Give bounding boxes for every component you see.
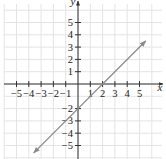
- y-tick-label: 1: [68, 66, 73, 77]
- x-axis-label: x: [157, 81, 163, 93]
- x-tick-label: −1: [60, 88, 71, 99]
- x-tick-label: 3: [112, 88, 117, 99]
- y-tick-label: 4: [68, 29, 74, 40]
- y-tick-label: −2: [62, 103, 73, 114]
- y-tick-label: 5: [68, 17, 73, 28]
- x-tick-label: −3: [36, 88, 47, 99]
- x-tick-label: −5: [11, 88, 22, 99]
- x-tick-label: −2: [48, 88, 59, 99]
- y-tick-label: −5: [62, 140, 73, 151]
- x-tick-label: 5: [137, 88, 142, 99]
- grid-lines: [4, 4, 162, 159]
- y-tick-label: −4: [62, 128, 74, 139]
- y-tick-label: 3: [68, 42, 73, 53]
- x-tick-label: −4: [23, 88, 35, 99]
- y-tick-label: 2: [68, 54, 73, 65]
- coordinate-plane: −5−4−3−2−11234554321−2−3−4−5 x y: [0, 0, 166, 159]
- x-tick-label: 4: [125, 88, 131, 99]
- y-tick-label: −3: [62, 115, 73, 126]
- x-tick-label: 2: [100, 88, 105, 99]
- y-axis-label: y: [70, 0, 76, 7]
